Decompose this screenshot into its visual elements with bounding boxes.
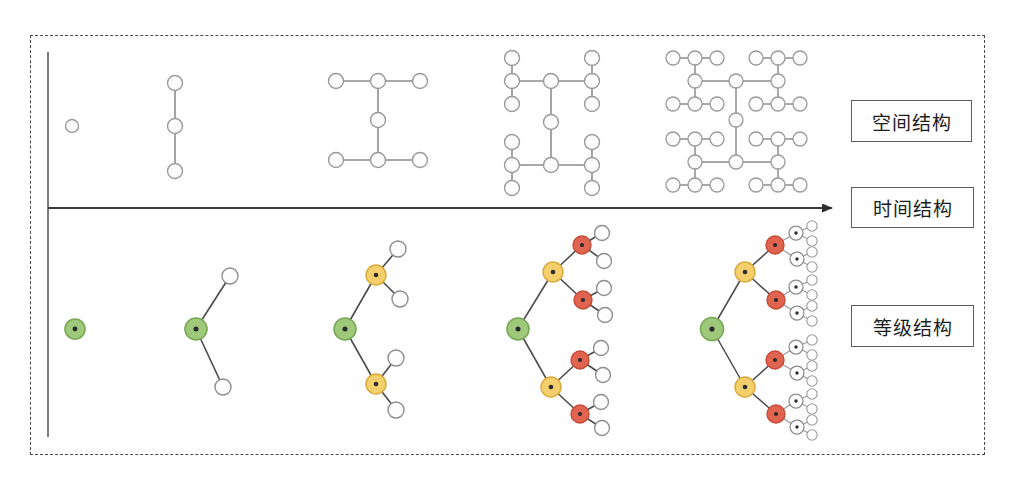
spatial-stage-4 — [505, 51, 600, 196]
hierarchy-stage-4 — [507, 226, 613, 436]
spatial-stage-5 — [666, 51, 807, 192]
hierarchy-stage-5 — [701, 221, 818, 440]
legend-box-hierarchical-structure: 等级结构 — [851, 305, 974, 347]
hierarchy-stage-3 — [334, 241, 408, 418]
figure-root: 空间结构 时间结构 等级结构 — [0, 0, 1020, 483]
spatial-stage-3 — [329, 74, 428, 168]
spatial-stage-2 — [168, 76, 183, 179]
legend-label-spatial: 空间结构 — [872, 108, 952, 135]
spatial-structures-row — [66, 51, 808, 196]
legend-label-hierarchical: 等级结构 — [873, 313, 953, 340]
diagram-canvas — [0, 0, 1020, 483]
legend-label-temporal: 时间结构 — [873, 194, 953, 221]
hierarchy-stage-1 — [65, 319, 85, 339]
hierarchical-trees-row — [65, 221, 817, 440]
spatial-stage-1 — [66, 120, 79, 133]
hierarchy-stage-2 — [185, 268, 238, 395]
legend-box-spatial-structure: 空间结构 — [851, 100, 972, 142]
legend-box-temporal-structure: 时间结构 — [851, 187, 974, 228]
